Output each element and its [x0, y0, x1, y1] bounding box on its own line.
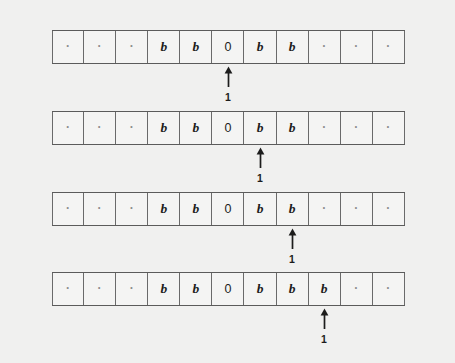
tape-cell-symbol: · — [386, 121, 390, 133]
tape-cell[interactable]: · — [84, 31, 116, 63]
tape-cell[interactable]: b — [244, 273, 276, 305]
tape-cell[interactable]: b — [244, 31, 276, 63]
tape-cell[interactable]: b — [180, 112, 212, 144]
tape-cell[interactable]: · — [341, 273, 373, 305]
tape-row: ···bb0bb···1 — [52, 192, 405, 226]
tape-cell-symbol: b — [257, 40, 264, 54]
tape-cell[interactable]: · — [373, 193, 405, 225]
tape-cell-symbol: b — [192, 202, 199, 216]
tape-cell-symbol: · — [130, 121, 134, 133]
tape-cell[interactable]: b — [180, 273, 212, 305]
up-arrow-icon — [287, 228, 298, 250]
tape-cell-symbol: b — [289, 202, 296, 216]
tape-cell-symbol: · — [354, 121, 358, 133]
tape-head: 1 — [283, 228, 301, 265]
tape-cell[interactable]: b — [244, 112, 276, 144]
up-arrow-icon — [319, 308, 330, 330]
tape-cell[interactable]: · — [84, 273, 116, 305]
up-arrow-icon — [223, 66, 234, 88]
tape-cell-symbol: b — [321, 282, 328, 296]
tape-cell-symbol: · — [98, 40, 102, 52]
tape-cell-symbol: · — [386, 202, 390, 214]
tape-figure: ···bb0bb···1···bb0bb···1···bb0bb···1···b… — [0, 0, 455, 363]
tape-cell[interactable]: · — [52, 112, 84, 144]
tape-head-label: 1 — [219, 92, 237, 103]
tape-cell[interactable]: b — [309, 273, 341, 305]
tape-cell[interactable]: · — [341, 31, 373, 63]
tape-cell[interactable]: · — [116, 193, 148, 225]
tape-cell-symbol: b — [289, 121, 296, 135]
tape-cell-symbol: · — [66, 282, 70, 294]
tape-cell[interactable]: 0 — [212, 193, 244, 225]
up-arrow-icon — [255, 147, 266, 169]
tape-row: ···bb0bb···1 — [52, 111, 405, 145]
tape-cell-symbol: 0 — [224, 283, 231, 296]
tape-head: 1 — [219, 66, 237, 103]
tape-cell[interactable]: b — [277, 273, 309, 305]
tape-cell-symbol: · — [98, 202, 102, 214]
tape-cell-symbol: · — [354, 202, 358, 214]
tape-cell-symbol: · — [322, 202, 326, 214]
tape-cell-symbol: · — [386, 282, 390, 294]
tape-cell[interactable]: b — [148, 193, 180, 225]
tape-head-label: 1 — [283, 254, 301, 265]
tape-cell-symbol: b — [160, 40, 167, 54]
tape-cell[interactable]: · — [84, 193, 116, 225]
tape-cell-symbol: b — [192, 40, 199, 54]
tape-cell-symbol: 0 — [224, 203, 231, 216]
tape-cell[interactable]: b — [244, 193, 276, 225]
tape-cell[interactable]: · — [309, 193, 341, 225]
tape-cell-symbol: b — [160, 202, 167, 216]
tape-cell[interactable]: · — [52, 31, 84, 63]
tape-head: 1 — [251, 147, 269, 184]
tape-cell-symbol: 0 — [224, 122, 231, 135]
tape-cell-symbol: b — [192, 282, 199, 296]
tape-cell[interactable]: b — [180, 31, 212, 63]
tape-cell-symbol: · — [322, 40, 326, 52]
tape-cell[interactable]: · — [116, 112, 148, 144]
tape-cell[interactable]: · — [373, 31, 405, 63]
tape-head: 1 — [315, 308, 333, 345]
tape-row: ···bb0bb···1 — [52, 30, 405, 64]
tape-cell[interactable]: · — [309, 31, 341, 63]
tape-cell[interactable]: · — [309, 112, 341, 144]
tape-cell[interactable]: 0 — [212, 273, 244, 305]
tape: ···bb0bb··· — [52, 192, 405, 226]
tape-cell[interactable]: 0 — [212, 31, 244, 63]
tape-cell[interactable]: b — [148, 112, 180, 144]
tape-cell[interactable]: · — [341, 112, 373, 144]
tape-cell-symbol: b — [289, 282, 296, 296]
tape: ···bb0bb··· — [52, 30, 405, 64]
tape: ···bb0bb··· — [52, 111, 405, 145]
tape-cell-symbol: · — [66, 40, 70, 52]
tape-cell[interactable]: b — [277, 193, 309, 225]
tape-cell[interactable]: · — [373, 273, 405, 305]
tape-cell-symbol: · — [130, 282, 134, 294]
tape-cell[interactable]: b — [277, 31, 309, 63]
tape-cell[interactable]: b — [277, 112, 309, 144]
tape-cell-symbol: b — [257, 282, 264, 296]
tape-cell[interactable]: · — [52, 193, 84, 225]
tape-cell-symbol: · — [98, 121, 102, 133]
tape-cell-symbol: b — [192, 121, 199, 135]
tape-head-label: 1 — [251, 173, 269, 184]
tape-head-label: 1 — [315, 334, 333, 345]
tape-cell-symbol: · — [130, 40, 134, 52]
tape-cell[interactable]: b — [148, 31, 180, 63]
tape-cell-symbol: · — [386, 40, 390, 52]
tape-cell[interactable]: b — [180, 193, 212, 225]
tape-cell-symbol: 0 — [224, 41, 231, 54]
tape-cell[interactable]: b — [148, 273, 180, 305]
tape: ···bb0bbb·· — [52, 272, 405, 306]
tape-cell[interactable]: · — [84, 112, 116, 144]
tape-cell[interactable]: · — [373, 112, 405, 144]
tape-cell[interactable]: 0 — [212, 112, 244, 144]
tape-cell[interactable]: · — [116, 273, 148, 305]
tape-cell-symbol: · — [130, 202, 134, 214]
tape-cell-symbol: b — [257, 121, 264, 135]
tape-cell[interactable]: · — [341, 193, 373, 225]
tape-cell[interactable]: · — [116, 31, 148, 63]
tape-cell[interactable]: · — [52, 273, 84, 305]
tape-cell-symbol: b — [257, 202, 264, 216]
tape-cell-symbol: b — [160, 282, 167, 296]
